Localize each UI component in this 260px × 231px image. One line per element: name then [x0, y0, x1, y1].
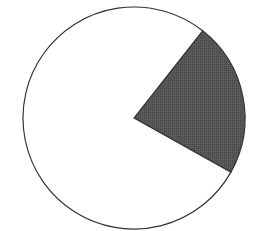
pie-slices — [23, 7, 245, 229]
pie-chart — [0, 0, 260, 231]
